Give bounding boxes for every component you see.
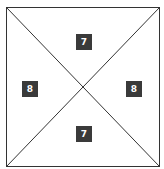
region-label-right: 8	[126, 81, 142, 97]
region-label-bottom: 7	[76, 126, 92, 142]
region-label-left: 8	[22, 81, 38, 97]
region-label-top: 7	[76, 34, 92, 50]
